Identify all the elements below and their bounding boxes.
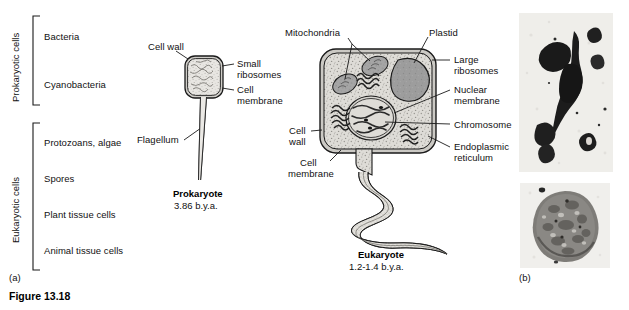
cell-type-plant-tissue-cells: Plant tissue cells xyxy=(44,209,116,221)
group-label-eukaryotic-cells: Eukaryotic cells xyxy=(10,177,21,243)
prokaryote-label-small-ribosomes-line1: Small xyxy=(237,58,261,70)
eukaryote-label-cell-wall-line1: Cell xyxy=(289,125,306,137)
filamentous-microfossil-micrograph xyxy=(519,13,613,172)
eukaryote-label-large-ribosomes-line2: ribosomes xyxy=(454,65,498,77)
cell-type-animal-tissue-cells: Animal tissue cells xyxy=(44,245,123,257)
figure-13-18: Prokaryotic cells Eukaryotic cells Bacte… xyxy=(0,0,629,310)
eukaryote-label-cell-wall-line2: wall xyxy=(289,136,306,148)
eukaryote-age: 1.2-1.4 b.y.a. xyxy=(349,261,404,272)
eukaryote-cell-diagram xyxy=(311,37,450,254)
figure-caption: Figure 13.18 xyxy=(9,290,70,302)
eukaryote-label-endoplasmic-reticulum-line1: Endoplasmic xyxy=(454,141,509,153)
prokaryote-label-cell-membrane-line2: membrane xyxy=(237,95,283,107)
panel-a-marker: (a) xyxy=(9,272,21,283)
cell-type-cyanobacteria: Cyanobacteria xyxy=(44,79,106,91)
eukaryote-label-large-ribosomes-line1: Large xyxy=(454,54,479,66)
prokaryote-age: 3.86 b.y.a. xyxy=(174,200,218,211)
group-label-prokaryotic-cells: Prokaryotic cells xyxy=(10,33,21,102)
eukaryote-label-plastid: Plastid xyxy=(429,27,458,39)
eukaryote-label-chromosome: Chromosome xyxy=(454,119,512,131)
prokaryote-label-cell-wall: Cell wall xyxy=(148,41,184,53)
prokaryote-label-cell-membrane-line1: Cell xyxy=(237,84,254,96)
eukaryote-label-cell-membrane-line2: membrane xyxy=(288,168,334,180)
eukaryote-label-nuclear-membrane-line1: Nuclear xyxy=(454,84,487,96)
prokaryote-label-flagellum: Flagellum xyxy=(137,134,179,146)
prokaryote-name: Prokaryote xyxy=(173,188,223,199)
eukaryote-name: Eukaryote xyxy=(358,249,404,260)
bracket-prokaryotic-cells xyxy=(33,16,40,105)
eukaryote-label-endoplasmic-reticulum-line2: reticulum xyxy=(454,152,493,164)
bracket-eukaryotic-cells xyxy=(33,123,40,270)
cell-type-protozoans-algae: Protozoans, algae xyxy=(44,137,121,149)
cell-type-bacteria: Bacteria xyxy=(44,31,79,43)
eukaryote-label-nuclear-membrane-line2: membrane xyxy=(454,95,500,107)
eukaryote-label-cell-membrane-line1: Cell xyxy=(300,157,317,169)
prokaryote-label-small-ribosomes-line2: ribosomes xyxy=(237,69,281,81)
spheroidal-microfossil-micrograph xyxy=(520,183,610,268)
prokaryote-cell-diagram xyxy=(176,51,234,180)
panel-b-marker: (b) xyxy=(519,272,531,283)
eukaryote-label-mitochondria: Mitochondria xyxy=(285,27,340,39)
cell-type-spores: Spores xyxy=(44,173,74,185)
